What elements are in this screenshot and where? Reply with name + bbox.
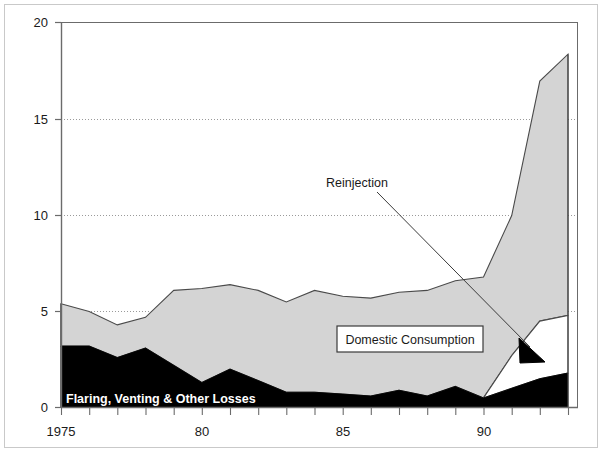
x-axis-ticks — [62, 408, 569, 416]
y-tick-label-20: 20 — [34, 15, 48, 30]
x-tick-label-1985: 85 — [336, 424, 350, 439]
stacked-area-chart: 20 15 10 5 0 1975 80 — [0, 0, 604, 453]
reinjection-label: Reinjection — [326, 176, 388, 190]
chart-page: 20 15 10 5 0 1975 80 — [0, 0, 604, 453]
x-tick-label-1980: 80 — [195, 424, 209, 439]
y-tick-label-10: 10 — [34, 208, 48, 223]
y-tick-label-0: 0 — [41, 400, 48, 415]
y-tick-label-15: 15 — [34, 112, 48, 127]
y-tick-label-5: 5 — [41, 304, 48, 319]
domestic-consumption-label: Domestic Consumption — [345, 333, 474, 347]
flaring-label: Flaring, Venting & Other Losses — [66, 392, 256, 406]
x-tick-label-1990: 90 — [477, 424, 491, 439]
y-axis-ticks — [55, 23, 61, 408]
x-tick-label-1975: 1975 — [47, 424, 76, 439]
